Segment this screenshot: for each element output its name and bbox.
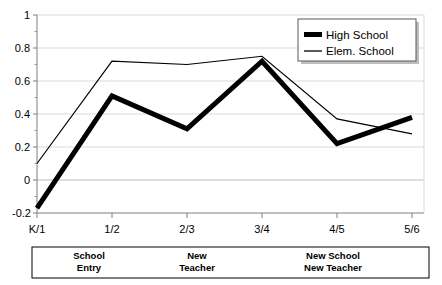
thick-line-swatch-icon — [304, 32, 322, 37]
legend[interactable]: High School Elem. School — [298, 19, 419, 64]
y-tick-label: 0.8 — [15, 42, 30, 54]
x-tick-marks — [37, 213, 412, 218]
y-tick-label: 0.6 — [15, 75, 30, 87]
y-tick-label: 0 — [24, 174, 30, 186]
x-tick-label: 2/3 — [179, 223, 194, 235]
y-tick-label: 1 — [24, 9, 30, 21]
x-tick-label: 4/5 — [329, 223, 344, 235]
x-tick-label: 3/4 — [254, 223, 269, 235]
y-axis-labels: 1 0.8 0.6 0.4 0.2 0 -0.2 — [12, 9, 31, 219]
legend-label: Elem. School — [326, 45, 394, 57]
annotation-line1: School — [73, 250, 105, 261]
annotation-bar: School Entry New Teacher New School New … — [32, 247, 429, 278]
x-tick-label: 5/6 — [404, 223, 419, 235]
y-tick-label: 0.4 — [15, 108, 30, 120]
y-tick-label: 0.2 — [15, 141, 30, 153]
x-tick-label: K/1 — [29, 223, 46, 235]
y-tick-label: -0.2 — [12, 207, 31, 219]
annotation-line1: New School — [306, 250, 360, 261]
annotation-group-new-school-new-teacher: New School New Teacher — [304, 250, 362, 273]
annotation-line2: New Teacher — [304, 262, 362, 273]
annotation-line2: Teacher — [179, 262, 215, 273]
legend-label: High School — [326, 29, 388, 41]
chart-container: 1 0.8 0.6 0.4 0.2 0 -0.2 K/1 1/2 2/3 3/4… — [0, 0, 442, 285]
line-chart: 1 0.8 0.6 0.4 0.2 0 -0.2 K/1 1/2 2/3 3/4… — [0, 0, 442, 285]
x-tick-label: 1/2 — [104, 223, 119, 235]
x-axis-labels: K/1 1/2 2/3 3/4 4/5 5/6 — [29, 223, 420, 235]
y-tick-marks — [33, 15, 37, 213]
data-series-group — [37, 56, 412, 208]
annotation-line2: Entry — [77, 262, 102, 273]
annotation-group-school-entry: School Entry — [73, 250, 105, 273]
series-line-high-school — [37, 61, 412, 208]
annotation-line1: New — [187, 250, 207, 261]
